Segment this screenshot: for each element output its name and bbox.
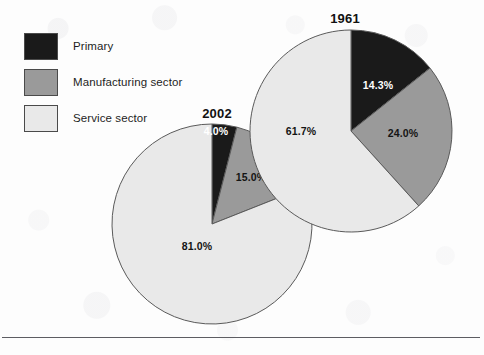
bottom-horizontal-rule [2,337,480,338]
pie-2002-title: 2002 [202,106,232,121]
pie-1961-title: 1961 [330,11,360,26]
legend-swatch-primary-icon [24,33,58,60]
pie-1961-label-primary: 14.3% [363,79,393,91]
pie-1961-label-service: 61.7% [286,125,316,137]
pie-1961 [248,28,454,234]
legend-swatch-service-icon [24,105,58,132]
legend-item-manufacturing: Manufacturing sector [24,64,224,100]
legend-label-primary: Primary [73,40,113,52]
legend-item-primary: Primary [24,28,224,64]
pie-2002-label-service: 81.0% [182,240,212,252]
pie-2002-label-primary: 4.0% [204,125,228,137]
legend-label-manufacturing: Manufacturing sector [73,76,182,88]
pie-chart-figure: Primary Manufacturing sector Service sec… [0,0,484,340]
legend: Primary Manufacturing sector Service sec… [24,28,224,136]
figure-page: Primary Manufacturing sector Service sec… [0,0,484,355]
pie-1961-label-manufacturing: 24.0% [388,127,418,139]
legend-swatch-manufacturing-icon [24,69,58,96]
